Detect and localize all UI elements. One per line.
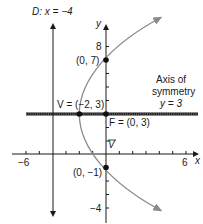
axis-symmetry-label-line3: y = 3	[159, 98, 182, 109]
x-axis-label: x	[194, 155, 201, 166]
parabola-diagram: D: x = −4 y x 8 −4 −6 6 (0, 7) (0, −1) V…	[0, 0, 203, 224]
point-0-neg1-label: (0, −1)	[73, 167, 102, 178]
v-marker-label: V	[108, 139, 116, 150]
directrix-label: D: x = −4	[32, 6, 73, 17]
point-0-7-label: (0, 7)	[76, 55, 99, 66]
vertex-point	[77, 111, 83, 117]
y-tick-8-label: 8	[96, 41, 102, 52]
y-tick-neg4-label: −4	[90, 203, 102, 214]
point-0-neg1	[103, 165, 109, 171]
y-axis-label: y	[95, 18, 102, 29]
point-0-7	[103, 57, 109, 63]
focus-label: F = (0, 3)	[109, 117, 150, 128]
vertex-label: V = (−2, 3)	[57, 99, 104, 110]
axis-symmetry-label-line2: symmetry	[152, 86, 195, 97]
focus-point	[103, 111, 109, 117]
x-axis	[12, 151, 196, 154]
x-tick-neg6-label: −6	[18, 157, 30, 168]
axis-symmetry-label-line1: Axis of	[156, 74, 186, 85]
x-tick-6-label: 6	[182, 157, 188, 168]
